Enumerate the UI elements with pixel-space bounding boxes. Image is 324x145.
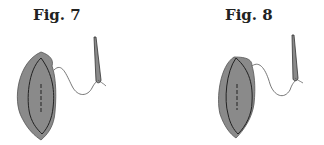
needle-icon <box>292 35 303 83</box>
fabric-piece-icon <box>219 57 255 138</box>
thread-icon <box>252 64 296 95</box>
sewing-illustration <box>0 0 162 145</box>
figure-8: Fig. 8 <box>162 0 324 145</box>
fabric-piece-icon <box>17 52 55 140</box>
thread-icon <box>54 67 100 94</box>
figure-7: Fig. 7 <box>0 0 162 145</box>
needle-icon <box>94 37 106 86</box>
sewing-illustration <box>162 0 324 145</box>
